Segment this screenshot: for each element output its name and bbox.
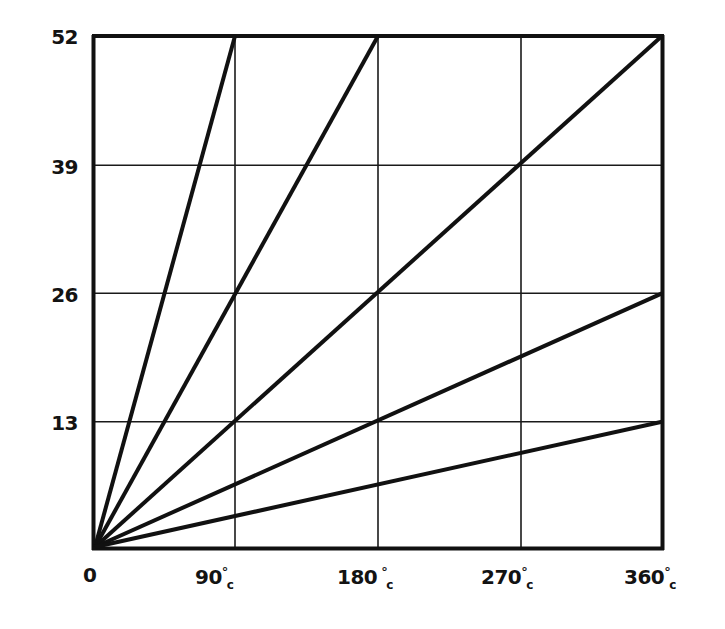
x-tick-270-number: 270: [481, 565, 521, 589]
x-tick-90-number: 90: [195, 565, 222, 589]
x-tick-0-number: 0: [83, 563, 96, 587]
y-tick-label-39: 39: [18, 157, 78, 177]
chart-canvas: [0, 0, 725, 629]
x-unit-subscript-90: c: [227, 578, 234, 592]
degree-symbol-180: °: [381, 564, 387, 579]
y-tick-label-52: 52: [18, 27, 78, 47]
line-chart: 52 39 26 13 0 90°c 180°c 270°c 360°c: [0, 0, 725, 629]
degree-symbol-90: °: [222, 564, 228, 579]
degree-symbol-270: °: [521, 564, 527, 579]
x-tick-label-270: 270°c: [481, 565, 533, 591]
x-tick-label-180: 180°c: [337, 565, 393, 591]
x-tick-label-0: 0: [83, 565, 96, 585]
x-tick-360-number: 360: [624, 565, 664, 589]
x-unit-subscript-270: c: [526, 578, 533, 592]
x-unit-subscript-180: c: [386, 578, 393, 592]
y-tick-label-26: 26: [18, 285, 78, 305]
degree-symbol-360: °: [664, 564, 670, 579]
x-tick-180-number: 180: [337, 565, 377, 589]
x-unit-subscript-360: c: [669, 578, 676, 592]
x-tick-label-360: 360°c: [624, 565, 676, 591]
y-tick-label-13: 13: [18, 413, 78, 433]
x-tick-label-90: 90°c: [195, 565, 233, 591]
